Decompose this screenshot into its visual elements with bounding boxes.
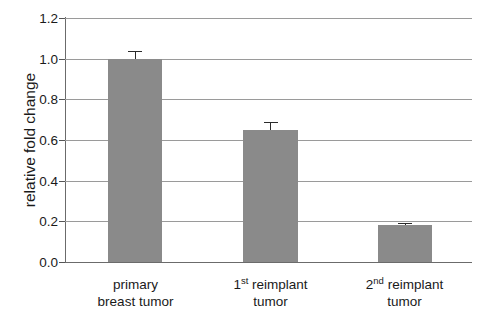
error-bar-cap	[264, 122, 278, 123]
x-label-line2: tumor	[337, 293, 472, 310]
x-label-line2: tumor	[203, 293, 338, 310]
gridline	[65, 18, 472, 19]
bar-primary-breast-tumor	[108, 59, 162, 262]
x-axis-baseline	[65, 262, 472, 263]
x-label-line1: primary	[113, 277, 158, 292]
x-label-ordinal: 1	[233, 277, 241, 292]
error-bar-cap	[398, 223, 412, 224]
x-label-ordinal-suffix: nd	[373, 275, 384, 286]
y-axis-tick-labels: 1.2 1.0 0.8 0.6 0.4 0.2 0.0	[18, 0, 58, 318]
bar-1st-reimplant-tumor	[243, 130, 298, 262]
x-label-ordinal-suffix: st	[241, 275, 248, 286]
x-label-line2: breast tumor	[68, 293, 203, 310]
error-bar-cap	[128, 51, 142, 52]
x-axis-label-primary-breast-tumor: primary breast tumor	[68, 276, 203, 310]
y-tick-label: 0.8	[20, 92, 58, 107]
y-tick-label: 0.0	[20, 255, 58, 270]
y-tick-label: 0.2	[20, 214, 58, 229]
error-bar-stem	[135, 51, 136, 59]
y-tick-label: 1.0	[20, 51, 58, 66]
bar-2nd-reimplant-tumor	[378, 225, 432, 262]
x-label-line1: reimplant	[388, 277, 444, 292]
y-tick-label: 0.6	[20, 133, 58, 148]
x-axis-label-1st-reimplant-tumor: 1st reimplant tumor	[203, 276, 338, 310]
x-axis-label-2nd-reimplant-tumor: 2nd reimplant tumor	[337, 276, 472, 310]
x-label-line1: reimplant	[252, 277, 308, 292]
y-tick-label: 0.4	[20, 173, 58, 188]
plot-area	[65, 18, 472, 262]
error-bar-stem	[270, 122, 271, 130]
bar-chart-figure: relative fold change 1.2 1.0 0.8 0.6 0.4…	[0, 0, 479, 318]
y-tick-label: 1.2	[20, 11, 58, 26]
